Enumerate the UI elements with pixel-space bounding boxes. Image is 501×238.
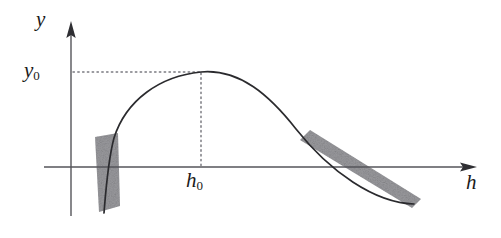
y0-base: y <box>24 58 33 82</box>
y-axis-label-y: y <box>36 9 45 30</box>
figure-graphic <box>0 0 501 238</box>
guide-lines <box>73 72 202 167</box>
figure-container: y y0 h0 h <box>0 0 501 238</box>
trajectory-curve <box>104 72 414 213</box>
h0-tick-label: h0 <box>186 170 203 191</box>
right-uncertainty-band <box>300 130 421 208</box>
uncertainty-bands <box>95 130 421 212</box>
y0-tick-label: y0 <box>24 60 40 81</box>
h0-subscript: 0 <box>197 178 204 193</box>
trajectory-curve-group <box>104 72 414 213</box>
y0-subscript: 0 <box>33 68 40 83</box>
h0-base: h <box>186 168 197 192</box>
x-axis-label-h: h <box>466 172 477 193</box>
